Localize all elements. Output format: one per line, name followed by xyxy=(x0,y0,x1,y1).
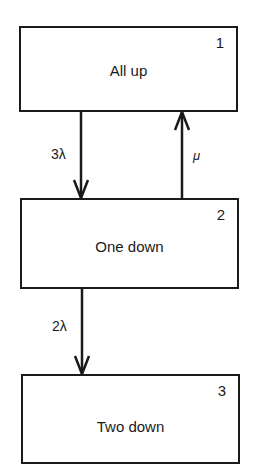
state-label: One down xyxy=(22,238,237,255)
state-label: All up xyxy=(21,62,236,79)
rate-label-3lambda: 3λ xyxy=(51,146,66,162)
rate-label-2lambda: 2λ xyxy=(52,318,67,334)
state-box-one-down: 2 One down xyxy=(20,198,239,289)
state-label: Two down xyxy=(23,418,238,435)
state-number: 3 xyxy=(218,382,226,399)
rate-label-mu: μ xyxy=(193,148,200,163)
state-number: 2 xyxy=(217,206,225,223)
state-box-all-up: 1 All up xyxy=(19,26,238,112)
state-box-two-down: 3 Two down xyxy=(21,374,240,464)
state-number: 1 xyxy=(216,34,224,51)
